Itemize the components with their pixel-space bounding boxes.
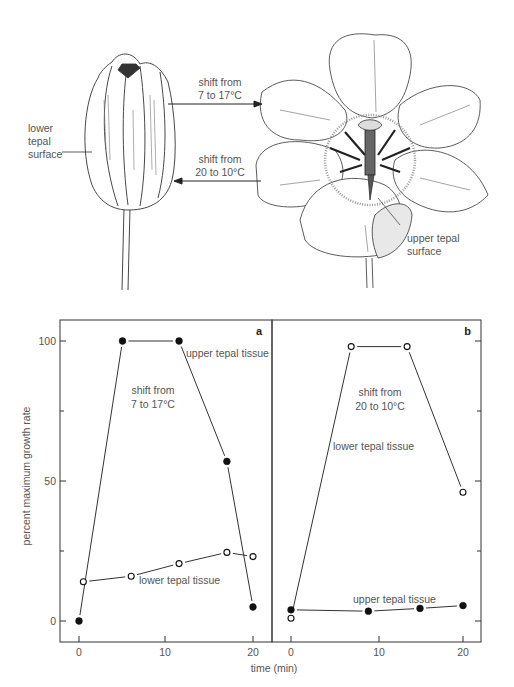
y-axis-ticks-right (475, 341, 481, 621)
x-tick-a-10: 10 (159, 646, 171, 658)
open-data-point (128, 573, 134, 579)
panel-a-letter: a (256, 325, 263, 337)
filled-data-point (176, 338, 183, 345)
filled-data-point (365, 608, 372, 615)
label-line: lower (28, 122, 62, 135)
lower-tepal-surface-label: lower tepal surface (28, 122, 62, 161)
series-line-segment (80, 347, 122, 615)
label-line: shift from (190, 153, 250, 166)
label-line: upper tepal (407, 232, 460, 245)
y-axis-title: percent maximum growth rate (20, 406, 32, 545)
panel-a-lower-tissue-label: lower tepal tissue (139, 574, 220, 586)
filled-data-point (250, 604, 257, 611)
x-tick-b-0: 0 (288, 646, 294, 658)
panel-b-lower-tissue-label: lower tepal tissue (333, 440, 414, 452)
x-axis-ticks (79, 636, 463, 642)
panel-a-annotation-line1: shift from (131, 384, 174, 396)
label-line: 7 to 17°C (190, 89, 250, 102)
shift-close-label: shift from 20 to 10°C (190, 153, 250, 179)
series-line-segment (426, 606, 457, 608)
series-lower-tepal-tissue (288, 344, 466, 622)
x-tick-b-10: 10 (373, 646, 385, 658)
panel-a-frame (60, 320, 272, 642)
label-line: surface (28, 148, 62, 161)
series-line-segment (292, 352, 350, 612)
series-upper-tepal-tissue (288, 602, 467, 614)
series-layer (76, 338, 467, 625)
open-data-point (460, 489, 466, 495)
panel-a-upper-tissue-label: upper tepal tissue (186, 347, 269, 359)
upper-tepal-surface-label: upper tepal surface (407, 232, 460, 258)
panel-b-annotation-line2: 20 to 10°C (355, 400, 405, 412)
label-line: 20 to 10°C (190, 166, 250, 179)
panel-b-annotation-line1: shift from (358, 386, 401, 398)
panel-b-frame (272, 320, 481, 642)
y-tick-0: 0 (50, 615, 56, 627)
open-data-point (404, 344, 410, 350)
open-data-point (80, 579, 86, 585)
y-tick-50: 50 (44, 475, 56, 487)
series-line-segment (228, 467, 252, 601)
label-line: surface (407, 245, 460, 258)
panel-b-letter: b (464, 325, 471, 337)
label-line: tepal (28, 135, 62, 148)
filled-data-point (460, 602, 467, 609)
panel-a-annotation-line2: 7 to 17°C (131, 398, 175, 410)
series-line-segment (374, 609, 414, 611)
series-line-segment (297, 610, 362, 611)
open-data-point (288, 615, 294, 621)
filled-data-point (288, 606, 295, 613)
series-line-segment (137, 565, 173, 575)
label-line: shift from (190, 76, 250, 89)
filled-data-point (224, 458, 231, 465)
y-tick-100: 100 (38, 335, 56, 347)
series-lower-tepal-tissue (80, 549, 256, 584)
filled-data-point (76, 618, 83, 625)
filled-data-point (119, 338, 126, 345)
y-axis-ticks (60, 341, 66, 621)
x-tick-a-20: 20 (247, 646, 259, 658)
open-data-point (250, 554, 256, 560)
x-tick-b-20: 20 (457, 646, 469, 658)
series-line-segment (89, 577, 125, 581)
shift-open-label: shift from 7 to 17°C (190, 76, 250, 102)
open-data-point (348, 344, 354, 350)
open-data-point (224, 549, 230, 555)
series-upper-tepal-tissue (76, 338, 257, 625)
series-line-segment (233, 553, 247, 555)
series-line-segment (181, 347, 224, 456)
series-line-segment (185, 554, 221, 562)
panel-b-upper-tissue-label: upper tepal tissue (353, 593, 436, 605)
x-tick-a-0: 0 (76, 646, 82, 658)
x-axis-title: time (min) (251, 662, 298, 674)
open-data-point (176, 561, 182, 567)
series-line-segment (409, 352, 461, 486)
closed-tulip-drawing (85, 54, 175, 290)
filled-data-point (417, 605, 424, 612)
